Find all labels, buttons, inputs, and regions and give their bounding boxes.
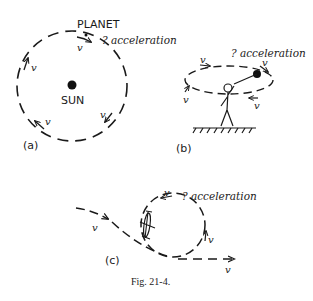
acceleration-label-a: ? acceleration	[102, 34, 177, 46]
sun-label: SUN	[61, 94, 84, 107]
velocity-label-right-c: v	[208, 234, 214, 245]
velocity-arrow-right-c	[205, 231, 206, 241]
loop-path	[141, 193, 205, 257]
velocity-arrow-left-b	[185, 86, 189, 92]
velocity-label-bottom-right: v	[100, 109, 106, 120]
velocity-label-top-b: v	[200, 54, 206, 65]
sun-dot	[68, 81, 77, 90]
velocity-label-incoming: v	[92, 222, 98, 233]
panel-label-c: (c)	[105, 254, 120, 267]
velocity-arrow-left	[24, 58, 28, 70]
panel-c: v ? acceleration v v v (c)	[76, 187, 257, 275]
planet-dot	[85, 34, 88, 37]
velocity-arrow-top-b	[200, 65, 210, 66]
acceleration-label-b: ? acceleration	[231, 47, 306, 59]
person-figure	[221, 84, 234, 126]
panel-label-a: (a)	[23, 139, 38, 152]
planet-label: PLANET	[77, 18, 120, 31]
velocity-arrow-bottom-left	[35, 121, 44, 129]
velocity-arrow-bottom-right	[105, 113, 112, 122]
ground	[193, 128, 256, 133]
velocity-label-bottom-b: v	[254, 100, 260, 111]
panel-a: SUN PLANET ? acceleration v v v v (a)	[17, 18, 177, 152]
acceleration-label-c: ? acceleration	[182, 190, 257, 202]
velocity-label-bottom-left: v	[45, 116, 51, 127]
panel-label-b: (b)	[176, 142, 192, 155]
velocity-label-outgoing: v	[225, 264, 231, 275]
figure-caption: Fig. 21-4.	[131, 276, 170, 287]
panel-b: ? acceleration v v v v (b)	[176, 47, 306, 155]
velocity-label-ball: v	[262, 57, 268, 68]
velocity-label-left-b: v	[183, 94, 189, 105]
string	[234, 74, 257, 84]
velocity-label-top-c: v	[164, 187, 170, 198]
velocity-label-left: v	[31, 62, 37, 73]
incoming-path	[76, 208, 108, 219]
velocity-label-top: v	[77, 42, 83, 53]
swing-path	[185, 66, 273, 94]
